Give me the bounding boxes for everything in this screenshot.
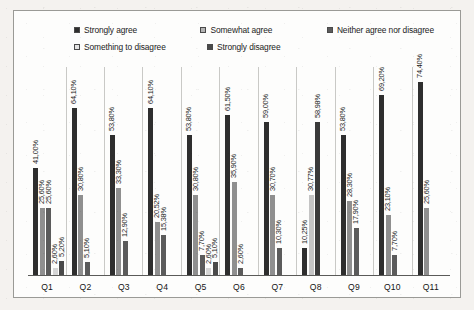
bar[interactable]: 2,60% bbox=[206, 268, 211, 275]
legend-swatch-icon bbox=[74, 27, 80, 33]
bar-group-q8: 10,25%30,77%58,98% bbox=[297, 67, 335, 275]
bar-value-label: 64,10% bbox=[146, 80, 155, 104]
legend-item-something-to-disagree[interactable]: Something to disagree bbox=[74, 42, 207, 52]
bar[interactable]: 17,90% bbox=[354, 228, 359, 275]
bar[interactable]: 25,60% bbox=[46, 208, 51, 275]
bar-group-q7: 59,00%30,70%10,30% bbox=[259, 67, 297, 275]
x-tick-q10: Q10 bbox=[373, 277, 411, 297]
bar[interactable]: 7,70% bbox=[392, 255, 397, 275]
legend-label: Neither agree nor disagree bbox=[337, 25, 434, 35]
bar[interactable]: 5,10% bbox=[85, 262, 90, 275]
bar[interactable]: 30,77% bbox=[309, 195, 314, 275]
x-tick-q8: Q8 bbox=[297, 277, 335, 297]
x-tick-q3: Q3 bbox=[105, 277, 143, 297]
bar[interactable]: 10,30% bbox=[277, 248, 282, 275]
bar[interactable]: 53,80% bbox=[110, 135, 115, 275]
bar-group-q10: 69,20%23,10%7,70% bbox=[374, 67, 412, 275]
bar-slot: 12,90% bbox=[123, 67, 128, 275]
bar-value-label: 53,80% bbox=[338, 107, 347, 131]
bar-value-label: 61,50% bbox=[223, 87, 232, 111]
bar-value-label: 5,20% bbox=[57, 238, 66, 258]
bar-value-label: 10,30% bbox=[274, 220, 283, 244]
legend-item-strongly-agree[interactable]: Strongly agree bbox=[74, 25, 200, 35]
legend-row: Strongly agreeSomewhat agreeNeither agre… bbox=[74, 21, 460, 38]
bar-group-q9: 53,80%28,30%17,90% bbox=[336, 67, 374, 275]
legend-swatch-icon bbox=[200, 27, 206, 33]
x-tick-q5: Q5 bbox=[181, 277, 219, 297]
x-tick-q7: Q7 bbox=[258, 277, 296, 297]
bar-slot: 53,80% bbox=[341, 67, 346, 275]
legend-item-strongly-disagree[interactable]: Strongly disagree bbox=[207, 42, 340, 52]
bar[interactable]: 12,90% bbox=[123, 241, 128, 275]
bar-value-label: 30,80% bbox=[191, 167, 200, 191]
bar[interactable]: 53,80% bbox=[341, 135, 346, 275]
bar-value-label: 23,10% bbox=[383, 187, 392, 211]
bar-value-label: 59,00% bbox=[261, 94, 270, 118]
bar-value-label: 25,60% bbox=[44, 181, 53, 205]
bar[interactable]: 25,60% bbox=[424, 208, 429, 275]
bar-value-label: 53,80% bbox=[184, 107, 193, 131]
x-tick-q6: Q6 bbox=[220, 277, 258, 297]
bar-value-label: 17,90% bbox=[351, 201, 360, 225]
bar-slot: 2,60% bbox=[238, 67, 243, 275]
bar[interactable]: 5,10% bbox=[213, 262, 218, 275]
chart-frame: Strongly agreeSomewhat agreeNeither agre… bbox=[13, 10, 461, 298]
bar-slot: 7,70% bbox=[392, 67, 397, 275]
legend-row: Something to disagreeStrongly disagree bbox=[74, 38, 460, 55]
x-tick-q2: Q2 bbox=[66, 277, 104, 297]
legend-label: Something to disagree bbox=[84, 42, 166, 52]
bar-value-label: 5,10% bbox=[82, 238, 91, 258]
bar[interactable]: 64,10% bbox=[72, 108, 77, 275]
bar[interactable]: 61,50% bbox=[225, 115, 230, 275]
bar[interactable]: 59,00% bbox=[264, 122, 269, 275]
bar[interactable]: 15,38% bbox=[161, 235, 166, 275]
bar[interactable]: 53,80% bbox=[187, 135, 192, 275]
legend-label: Somewhat agree bbox=[210, 25, 272, 35]
bar[interactable]: 58,98% bbox=[315, 122, 320, 275]
bar-group-q4: 64,10%20,52%15,38% bbox=[143, 67, 181, 275]
legend-item-neither-agree-nor-disagree[interactable]: Neither agree nor disagree bbox=[327, 25, 460, 35]
legend-swatch-icon bbox=[327, 27, 333, 33]
bar[interactable]: 2,60% bbox=[53, 268, 58, 275]
x-axis-tick-labels: Q1Q2Q3Q4Q5Q6Q7Q8Q9Q10Q11 bbox=[28, 277, 450, 297]
bar-value-label: 74,40% bbox=[415, 54, 424, 78]
bar-slot: 41,00% bbox=[33, 67, 38, 275]
chart-legend: Strongly agreeSomewhat agreeNeither agre… bbox=[14, 21, 460, 55]
bar-value-label: 69,20% bbox=[377, 67, 386, 91]
bar[interactable]: 74,40% bbox=[418, 82, 423, 275]
bar-value-label: 7,70% bbox=[390, 231, 399, 251]
plot-area: 41,00%25,60%25,60%2,60%5,20%64,10%30,80%… bbox=[28, 67, 450, 276]
bar-value-label: 5,10% bbox=[210, 238, 219, 258]
bar-slot: 64,10% bbox=[148, 67, 153, 275]
bar-slot: 25,60% bbox=[424, 67, 429, 275]
bar-slot: 20,52% bbox=[155, 67, 160, 275]
bar-group-q1: 41,00%25,60%25,60%2,60%5,20% bbox=[28, 67, 67, 275]
bar-group-q3: 53,80%33,30%12,90% bbox=[105, 67, 143, 275]
bar[interactable]: 5,20% bbox=[59, 261, 64, 275]
bar-value-label: 35,90% bbox=[229, 154, 238, 178]
legend-swatch-icon bbox=[74, 44, 80, 50]
x-tick-q1: Q1 bbox=[28, 277, 66, 297]
x-tick-q4: Q4 bbox=[143, 277, 181, 297]
bar-value-label: 64,10% bbox=[69, 80, 78, 104]
legend-item-somewhat-agree[interactable]: Somewhat agree bbox=[200, 25, 326, 35]
bar[interactable]: 2,60% bbox=[238, 268, 243, 275]
bar-value-label: 12,90% bbox=[120, 214, 129, 238]
bar-group-q6: 61,50%35,90%2,60% bbox=[220, 67, 258, 275]
bar-value-label: 53,80% bbox=[107, 107, 116, 131]
legend-label: Strongly agree bbox=[84, 25, 137, 35]
bar-value-label: 28,30% bbox=[345, 174, 354, 198]
bar[interactable]: 10,25% bbox=[302, 248, 307, 275]
bar-group-q2: 64,10%30,80%5,10% bbox=[67, 67, 105, 275]
bar-slot: 25,60% bbox=[40, 67, 45, 275]
bar[interactable]: 30,80% bbox=[78, 195, 83, 275]
bar-slot: 17,90% bbox=[354, 67, 359, 275]
bar-groups: 41,00%25,60%25,60%2,60%5,20%64,10%30,80%… bbox=[28, 67, 450, 275]
bar[interactable]: 64,10% bbox=[148, 108, 153, 275]
bar-slot: 33,30% bbox=[116, 67, 121, 275]
bar[interactable]: 25,60% bbox=[40, 208, 45, 275]
bar-slot: 15,38% bbox=[161, 67, 166, 275]
bar[interactable]: 69,20% bbox=[379, 95, 384, 275]
bar-group-q5: 53,80%30,80%7,70%2,60%5,10% bbox=[182, 67, 221, 275]
bar-value-label: 10,25% bbox=[300, 220, 309, 244]
